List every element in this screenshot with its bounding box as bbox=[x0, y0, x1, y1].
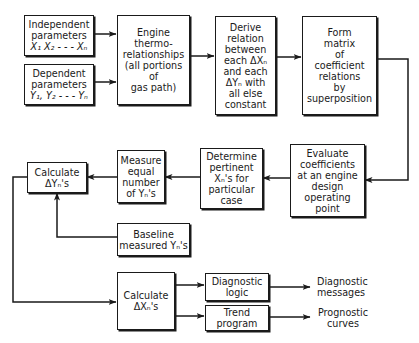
box-calculate-delta-y: Calculate ΔYₙ's bbox=[27, 162, 87, 193]
box-text: each ΔXₙ bbox=[224, 55, 267, 66]
box-text: Y₁, Y₂ - - - Yₙ bbox=[30, 90, 88, 101]
box-independent-parameters: Independent parameters X₁ X₂ - - - Xₙ bbox=[24, 15, 94, 56]
box-text: thermo- bbox=[134, 38, 172, 49]
box-text: pertinent bbox=[209, 162, 253, 173]
box-text: Derive bbox=[230, 22, 261, 33]
box-text: Engine bbox=[137, 27, 170, 38]
box-text: Xₙ's for bbox=[214, 173, 248, 184]
box-text: Measure bbox=[121, 155, 162, 166]
box-text: by bbox=[334, 82, 346, 93]
box-text: program bbox=[217, 318, 258, 329]
box-text: matrix bbox=[324, 38, 355, 49]
box-determine-pertinent: Determine pertinent Xₙ's for particular … bbox=[200, 148, 263, 209]
box-text: ΔXₙ's bbox=[134, 301, 159, 312]
output-text: Prognostic bbox=[318, 307, 368, 318]
box-text: between bbox=[225, 44, 267, 55]
box-text: Determine bbox=[206, 151, 257, 162]
box-trend-program: Trend program bbox=[205, 305, 269, 331]
output-diagnostic-messages: Diagnostic messages bbox=[317, 276, 368, 298]
box-text: (all portions bbox=[125, 60, 182, 71]
output-prognostic-curves: Prognostic curves bbox=[318, 307, 368, 329]
box-text: design bbox=[312, 181, 344, 192]
box-text: particular bbox=[208, 184, 254, 195]
box-text: of Yₙ's bbox=[126, 188, 156, 199]
box-text: Trend bbox=[224, 307, 250, 318]
box-text: ΔYₙ with bbox=[226, 77, 266, 88]
output-text: curves bbox=[318, 318, 368, 329]
box-text: Diagnostic bbox=[212, 276, 263, 287]
box-text: Dependent bbox=[32, 68, 85, 79]
box-text: measured Yₙ's bbox=[119, 240, 187, 251]
box-text: parameters bbox=[31, 79, 87, 90]
box-calculate-delta-x: Calculate ΔXₙ's bbox=[117, 272, 175, 330]
box-text: Form bbox=[327, 27, 351, 38]
box-text: Independent bbox=[29, 19, 90, 30]
box-text: and each bbox=[223, 66, 267, 77]
box-text: Evaluate bbox=[307, 148, 349, 159]
box-evaluate-coefficients: Evaluate coefficients at an engine desig… bbox=[290, 144, 365, 217]
box-text: of bbox=[335, 49, 344, 60]
box-text: at an engine bbox=[297, 170, 357, 181]
box-text: relation bbox=[227, 33, 264, 44]
box-text: constant bbox=[225, 99, 267, 110]
box-text: Baseline bbox=[133, 229, 174, 240]
box-text: Calculate bbox=[124, 290, 169, 301]
box-text: logic bbox=[226, 287, 249, 298]
box-engine-thermo: Engine thermo- relationships (all portio… bbox=[117, 15, 190, 105]
box-text: coefficients bbox=[300, 159, 355, 170]
box-derive-relation: Derive relation between each ΔXₙ and eac… bbox=[215, 16, 276, 115]
box-text: parameters bbox=[31, 30, 87, 41]
box-text: relationships bbox=[123, 49, 184, 60]
output-text: messages bbox=[317, 287, 368, 298]
box-text: relations bbox=[319, 71, 361, 82]
box-text: point bbox=[315, 203, 339, 214]
box-text: ΔYₙ's bbox=[45, 178, 69, 189]
box-diagnostic-logic: Diagnostic logic bbox=[205, 273, 269, 301]
box-form-matrix: Form matrix of coefficient relations by … bbox=[302, 16, 377, 115]
box-baseline-measured: Baseline measured Yₙ's bbox=[117, 223, 190, 256]
box-text: operating bbox=[304, 192, 350, 203]
output-text: Diagnostic bbox=[317, 276, 368, 287]
box-text: case bbox=[220, 195, 242, 206]
box-text: superposition bbox=[307, 93, 372, 104]
box-text: all else bbox=[229, 88, 263, 99]
box-text: Calculate bbox=[35, 167, 80, 178]
box-text: coefficient bbox=[314, 60, 364, 71]
box-measure-equal: Measure equal number of Yₙ's bbox=[117, 150, 165, 203]
box-text: gas path) bbox=[131, 82, 177, 93]
box-text: of bbox=[149, 71, 158, 82]
box-text: equal bbox=[128, 166, 155, 177]
box-dependent-parameters: Dependent parameters Y₁, Y₂ - - - Yₙ bbox=[24, 64, 94, 105]
box-text: number bbox=[122, 177, 159, 188]
box-text: X₁ X₂ - - - Xₙ bbox=[31, 41, 88, 52]
